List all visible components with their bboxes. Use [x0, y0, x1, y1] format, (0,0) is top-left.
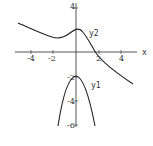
y-tick-label: 4 — [70, 2, 75, 11]
x-axis-label: x — [142, 48, 147, 57]
x-tick-label: -2 — [48, 54, 56, 63]
y-tick-label: -4 — [67, 97, 75, 106]
y2-label: y2 — [89, 29, 99, 38]
y1-label: y1 — [91, 81, 101, 90]
x-tick-label: 4 — [119, 54, 124, 63]
x-tick-label: -4 — [27, 54, 35, 63]
y2-curve — [18, 23, 133, 84]
plot-area: -4 -2 2 4 x 4 -2 -4 -6 y2 y1 — [0, 0, 153, 146]
y-tick-label: -6 — [67, 121, 75, 130]
